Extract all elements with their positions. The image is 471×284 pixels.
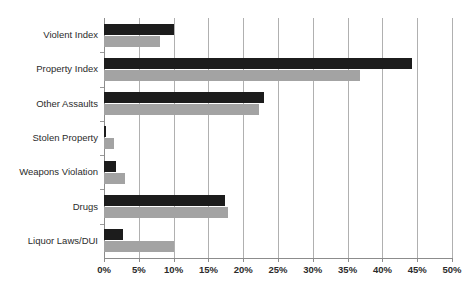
bar bbox=[104, 126, 106, 137]
bar-group bbox=[104, 189, 452, 223]
x-axis-tick-label: 5% bbox=[132, 264, 146, 276]
x-axis-tick-label: 25% bbox=[268, 264, 287, 276]
bar-group bbox=[104, 224, 452, 258]
x-axis-tick-label: 30% bbox=[303, 264, 322, 276]
bar bbox=[104, 241, 174, 252]
x-axis-tick-label: 20% bbox=[234, 264, 253, 276]
bar-group bbox=[104, 52, 452, 86]
category-axis-tick bbox=[100, 52, 104, 53]
x-axis-tick-label: 10% bbox=[164, 264, 183, 276]
chart-title bbox=[104, 0, 452, 4]
category-label: Weapons Violation bbox=[0, 166, 98, 177]
bar-group bbox=[104, 121, 452, 155]
category-axis-labels: Violent IndexProperty IndexOther Assault… bbox=[0, 18, 98, 258]
x-axis-tick bbox=[452, 258, 453, 262]
category-axis-tick bbox=[100, 189, 104, 190]
bar-group bbox=[104, 18, 452, 52]
x-axis-tick-label: 45% bbox=[408, 264, 427, 276]
x-axis-tick bbox=[348, 258, 349, 262]
bar bbox=[104, 104, 259, 115]
bar bbox=[104, 161, 116, 172]
chart-container: Violent IndexProperty IndexOther Assault… bbox=[0, 0, 471, 284]
plot-area bbox=[104, 18, 452, 258]
bar-group bbox=[104, 155, 452, 189]
bar bbox=[104, 92, 264, 103]
x-axis-tick bbox=[243, 258, 244, 262]
category-label: Violent Index bbox=[0, 29, 98, 40]
x-axis-tick-label: 50% bbox=[442, 264, 461, 276]
x-axis-tick bbox=[417, 258, 418, 262]
category-axis-tick bbox=[100, 121, 104, 122]
x-axis-tick bbox=[104, 258, 105, 262]
x-axis-tick bbox=[313, 258, 314, 262]
x-axis-tick-label: 0% bbox=[97, 264, 111, 276]
x-axis-tick bbox=[174, 258, 175, 262]
bar bbox=[104, 138, 114, 149]
gridline-50pct bbox=[452, 18, 453, 258]
category-label: Drugs bbox=[0, 201, 98, 212]
x-axis-tick bbox=[382, 258, 383, 262]
bar bbox=[104, 207, 228, 218]
category-label: Stolen Property bbox=[0, 132, 98, 143]
x-axis-tick bbox=[278, 258, 279, 262]
bar bbox=[104, 229, 123, 240]
x-axis-tick-label: 35% bbox=[338, 264, 357, 276]
bar bbox=[104, 70, 360, 81]
bar bbox=[104, 173, 125, 184]
bar bbox=[104, 58, 412, 69]
category-axis-tick bbox=[100, 87, 104, 88]
x-axis-tick bbox=[208, 258, 209, 262]
category-label: Property Index bbox=[0, 63, 98, 74]
category-axis-tick bbox=[100, 155, 104, 156]
bar bbox=[104, 36, 160, 47]
x-axis-tick bbox=[139, 258, 140, 262]
category-label: Liquor Laws/DUI bbox=[0, 235, 98, 246]
x-axis-tick-label: 40% bbox=[373, 264, 392, 276]
bar bbox=[104, 195, 225, 206]
bar-group bbox=[104, 87, 452, 121]
bar bbox=[104, 24, 174, 35]
x-axis-tick-label: 15% bbox=[199, 264, 218, 276]
category-axis-tick bbox=[100, 224, 104, 225]
category-label: Other Assaults bbox=[0, 98, 98, 109]
